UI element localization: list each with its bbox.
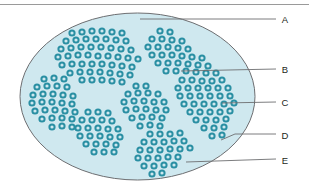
cell-ring <box>135 56 140 61</box>
cell-ring <box>221 124 226 129</box>
cell-ring <box>67 70 72 75</box>
cell-ring <box>149 114 154 119</box>
cell-ring <box>149 171 154 176</box>
cell-ring <box>175 60 180 65</box>
cell-ring <box>109 62 114 67</box>
cell-ring <box>87 133 92 138</box>
cell-ring <box>34 84 39 89</box>
cell-ring <box>97 133 102 138</box>
cell-ring <box>108 45 113 50</box>
cell-ring <box>107 134 112 139</box>
cell-ring <box>201 101 206 106</box>
cell-ring <box>191 101 196 106</box>
cell-ring <box>147 131 152 136</box>
cell-ring <box>179 53 184 58</box>
cell-ring <box>105 110 110 115</box>
cell-ring <box>161 139 166 144</box>
cell-ring <box>175 154 180 159</box>
cell-ring <box>205 85 210 90</box>
cell-ring <box>68 45 73 50</box>
cell-ring <box>157 147 162 152</box>
cell-ring <box>187 93 192 98</box>
cell-ring <box>145 44 150 49</box>
cell-ring <box>199 78 204 83</box>
cell-ring <box>157 28 162 33</box>
cell-ring <box>163 68 168 73</box>
cell-ring <box>29 100 34 105</box>
cell-ring <box>175 45 180 50</box>
cell-ring <box>109 78 114 83</box>
cell-ring <box>118 46 123 51</box>
cell-ring <box>179 38 184 43</box>
cell-ring <box>103 141 108 146</box>
cell-ring <box>155 44 160 49</box>
cell-ring <box>105 53 110 58</box>
cell-ring <box>137 123 142 128</box>
cell-ring <box>157 123 162 128</box>
cell-ring <box>217 93 222 98</box>
cell-ring <box>179 77 184 82</box>
cell-ring <box>209 78 214 83</box>
cell-ring <box>123 107 128 112</box>
cell-ring <box>91 149 96 154</box>
cell-ring <box>64 84 69 89</box>
cell-ring <box>207 109 212 114</box>
cell-ring <box>128 47 133 52</box>
cell-ring <box>163 107 168 112</box>
cell-ring <box>93 36 98 41</box>
cell-ring <box>197 109 202 114</box>
cell-ring <box>159 170 164 175</box>
cell-ring <box>123 38 128 43</box>
cell-ring <box>98 44 103 49</box>
cell-ring <box>49 99 54 104</box>
cell-ring <box>125 91 130 96</box>
histology-diagram-svg: ABCDE <box>0 0 309 192</box>
cell-ring <box>167 29 172 34</box>
cell-ring <box>83 141 88 146</box>
cell-ring <box>131 98 136 103</box>
cell-ring <box>205 63 210 68</box>
cell-ring <box>113 37 118 42</box>
cell-ring <box>215 85 220 90</box>
cell-ring <box>107 70 112 75</box>
cell-ring <box>30 92 35 97</box>
cell-ring <box>111 149 116 154</box>
cell-ring <box>69 61 74 66</box>
cell-ring <box>141 163 146 168</box>
cell-ring <box>149 52 154 57</box>
cell-ring <box>149 36 154 41</box>
cell-ring <box>95 125 100 130</box>
cell-ring <box>119 79 124 84</box>
cell-ring <box>219 132 224 137</box>
cell-ring <box>113 142 118 147</box>
cell-ring <box>207 93 212 98</box>
cell-ring <box>181 101 186 106</box>
cell-ring <box>59 123 64 128</box>
figure-root: ABCDE <box>0 0 309 192</box>
cell-ring <box>173 68 178 73</box>
cell-ring <box>145 155 150 160</box>
cell-ring <box>79 61 84 66</box>
cell-ring <box>50 91 55 96</box>
cell-ring <box>60 92 65 97</box>
label-e: E <box>282 155 288 166</box>
cell-ring <box>42 107 47 112</box>
cell-ring <box>139 114 144 119</box>
cell-ring <box>95 53 100 58</box>
cell-ring <box>121 99 126 104</box>
cell-ring <box>227 108 232 113</box>
cell-ring <box>151 99 156 104</box>
cell-ring <box>62 108 67 113</box>
cell-ring <box>129 64 134 69</box>
cell-ring <box>209 133 214 138</box>
cell-ring <box>79 117 84 122</box>
cell-ring <box>55 54 60 59</box>
cell-ring <box>89 61 94 66</box>
cell-ring <box>151 139 156 144</box>
cell-ring <box>127 72 132 77</box>
cell-ring <box>185 85 190 90</box>
cell-ring <box>145 90 150 95</box>
cell-ring <box>195 85 200 90</box>
cell-ring <box>221 101 226 106</box>
cell-ring <box>77 69 82 74</box>
